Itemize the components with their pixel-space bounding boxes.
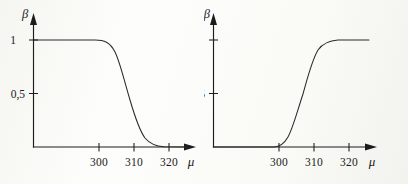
x-tick-label-320: 320 (160, 156, 178, 168)
y-axis-title: β (21, 7, 29, 21)
x-axis-title: μ (368, 154, 376, 169)
x-tick-label-300: 300 (90, 156, 108, 168)
x-tick-label-310: 310 (305, 156, 323, 168)
figure-canvas: β 1 0,5 300 310 320 μ (0, 0, 408, 184)
x-tick-label-320: 320 (340, 156, 358, 168)
y-tick-label-half: 0,5 (204, 88, 205, 101)
power-curve (214, 40, 369, 147)
x-tick-label-300: 300 (270, 156, 288, 168)
x-axis-title: μ (187, 154, 195, 169)
x-tick-label-310: 310 (125, 156, 143, 168)
power-plot-svg: 1−β 1 0,5 300 310 320 μ (204, 0, 408, 184)
y-axis-title-symbol: β (204, 7, 211, 21)
beta-curve (34, 40, 188, 147)
x-axis-arrowhead (365, 144, 377, 151)
y-tick-label-1: 1 (10, 34, 16, 46)
y-tick-label-half: 0,5 (11, 88, 26, 101)
beta-plot-svg: β 1 0,5 300 310 320 μ (0, 0, 204, 184)
y-axis-title: 1−β (204, 7, 211, 21)
y-axis-arrowhead (210, 13, 217, 25)
chart-panel-beta: β 1 0,5 300 310 320 μ (0, 0, 204, 184)
y-axis-arrowhead (30, 13, 37, 25)
chart-panel-power: 1−β 1 0,5 300 310 320 μ (204, 0, 408, 184)
